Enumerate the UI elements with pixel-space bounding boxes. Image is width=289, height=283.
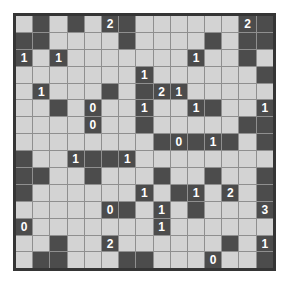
empty-cell-r2c3[interactable] (50, 33, 66, 49)
empty-cell-r2c6[interactable] (102, 33, 118, 49)
empty-cell-r9c3[interactable] (50, 151, 66, 167)
empty-cell-r12c10[interactable] (171, 202, 187, 218)
empty-cell-r3c2[interactable] (33, 50, 49, 66)
empty-cell-r4c11[interactable] (188, 67, 204, 83)
empty-cell-r12c1[interactable] (16, 202, 32, 218)
empty-cell-r4c4[interactable] (68, 67, 84, 83)
empty-cell-r13c5[interactable] (85, 219, 101, 235)
empty-cell-r13c2[interactable] (33, 219, 49, 235)
empty-cell-r8c2[interactable] (33, 134, 49, 150)
empty-cell-r10c14[interactable] (239, 168, 255, 184)
empty-cell-r15c11[interactable] (188, 252, 204, 268)
empty-cell-r3c9[interactable] (154, 50, 170, 66)
empty-cell-r8c8[interactable] (136, 134, 152, 150)
empty-cell-r9c15[interactable] (257, 151, 273, 167)
empty-cell-r2c8[interactable] (136, 33, 152, 49)
empty-cell-r4c10[interactable] (171, 67, 187, 83)
empty-cell-r2c10[interactable] (171, 33, 187, 49)
empty-cell-r11c14[interactable] (239, 185, 255, 201)
empty-cell-r10c7[interactable] (119, 168, 135, 184)
empty-cell-r11c12[interactable] (205, 185, 221, 201)
empty-cell-r3c15[interactable] (257, 50, 273, 66)
empty-cell-r7c6[interactable] (102, 117, 118, 133)
empty-cell-r14c8[interactable] (136, 236, 152, 252)
empty-cell-r3c8[interactable] (136, 50, 152, 66)
empty-cell-r5c4[interactable] (68, 84, 84, 100)
empty-cell-r7c2[interactable] (33, 117, 49, 133)
empty-cell-r8c14[interactable] (239, 134, 255, 150)
empty-cell-r13c11[interactable] (188, 219, 204, 235)
empty-cell-r4c1[interactable] (16, 67, 32, 83)
empty-cell-r15c14[interactable] (239, 252, 255, 268)
empty-cell-r12c5[interactable] (85, 202, 101, 218)
empty-cell-r13c7[interactable] (119, 219, 135, 235)
empty-cell-r7c4[interactable] (68, 117, 84, 133)
empty-cell-r6c13[interactable] (222, 100, 238, 116)
empty-cell-r2c11[interactable] (188, 33, 204, 49)
empty-cell-r5c5[interactable] (85, 84, 101, 100)
empty-cell-r8c1[interactable] (16, 134, 32, 150)
empty-cell-r6c14[interactable] (239, 100, 255, 116)
empty-cell-r8c6[interactable] (102, 134, 118, 150)
empty-cell-r10c4[interactable] (68, 168, 84, 184)
empty-cell-r1c8[interactable] (136, 16, 152, 32)
empty-cell-r9c10[interactable] (171, 151, 187, 167)
empty-cell-r13c8[interactable] (136, 219, 152, 235)
empty-cell-r6c2[interactable] (33, 100, 49, 116)
empty-cell-r15c9[interactable] (154, 252, 170, 268)
empty-cell-r4c13[interactable] (222, 67, 238, 83)
empty-cell-r14c11[interactable] (188, 236, 204, 252)
empty-cell-r4c3[interactable] (50, 67, 66, 83)
empty-cell-r14c12[interactable] (205, 236, 221, 252)
empty-cell-r13c15[interactable] (257, 219, 273, 235)
empty-cell-r3c6[interactable] (102, 50, 118, 66)
empty-cell-r5c12[interactable] (205, 84, 221, 100)
empty-cell-r1c12[interactable] (205, 16, 221, 32)
empty-cell-r2c4[interactable] (68, 33, 84, 49)
empty-cell-r9c12[interactable] (205, 151, 221, 167)
empty-cell-r7c11[interactable] (188, 117, 204, 133)
empty-cell-r14c10[interactable] (171, 236, 187, 252)
empty-cell-r7c13[interactable] (222, 117, 238, 133)
empty-cell-r15c1[interactable] (16, 252, 32, 268)
empty-cell-r13c3[interactable] (50, 219, 66, 235)
empty-cell-r4c14[interactable] (239, 67, 255, 83)
empty-cell-r1c5[interactable] (85, 16, 101, 32)
empty-cell-r5c11[interactable] (188, 84, 204, 100)
empty-cell-r12c8[interactable] (136, 202, 152, 218)
empty-cell-r7c12[interactable] (205, 117, 221, 133)
empty-cell-r3c12[interactable] (205, 50, 221, 66)
empty-cell-r6c7[interactable] (119, 100, 135, 116)
empty-cell-r15c13[interactable] (222, 252, 238, 268)
empty-cell-r6c10[interactable] (171, 100, 187, 116)
empty-cell-r10c10[interactable] (171, 168, 187, 184)
empty-cell-r6c9[interactable] (154, 100, 170, 116)
empty-cell-r9c14[interactable] (239, 151, 255, 167)
empty-cell-r13c6[interactable] (102, 219, 118, 235)
empty-cell-r11c9[interactable] (154, 185, 170, 201)
empty-cell-r11c4[interactable] (68, 185, 84, 201)
empty-cell-r3c10[interactable] (171, 50, 187, 66)
empty-cell-r4c6[interactable] (102, 67, 118, 83)
empty-cell-r8c3[interactable] (50, 134, 66, 150)
empty-cell-r5c13[interactable] (222, 84, 238, 100)
empty-cell-r10c3[interactable] (50, 168, 66, 184)
empty-cell-r7c1[interactable] (16, 117, 32, 133)
empty-cell-r13c4[interactable] (68, 219, 84, 235)
empty-cell-r1c13[interactable] (222, 16, 238, 32)
empty-cell-r9c11[interactable] (188, 151, 204, 167)
empty-cell-r10c8[interactable] (136, 168, 152, 184)
empty-cell-r8c5[interactable] (85, 134, 101, 150)
empty-cell-r13c12[interactable] (205, 219, 221, 235)
empty-cell-r9c2[interactable] (33, 151, 49, 167)
empty-cell-r14c9[interactable] (154, 236, 170, 252)
empty-cell-r4c2[interactable] (33, 67, 49, 83)
empty-cell-r4c12[interactable] (205, 67, 221, 83)
empty-cell-r1c3[interactable] (50, 16, 66, 32)
empty-cell-r8c4[interactable] (68, 134, 84, 150)
empty-cell-r10c6[interactable] (102, 168, 118, 184)
empty-cell-r15c6[interactable] (102, 252, 118, 268)
empty-cell-r8c7[interactable] (119, 134, 135, 150)
empty-cell-r12c14[interactable] (239, 202, 255, 218)
empty-cell-r2c13[interactable] (222, 33, 238, 49)
